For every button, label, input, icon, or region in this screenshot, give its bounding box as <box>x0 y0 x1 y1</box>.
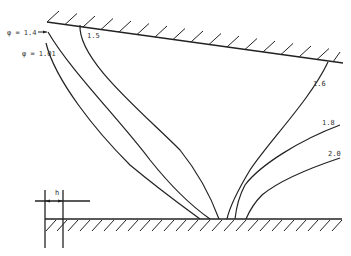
label-phi-1-01: φ = 1.01 <box>22 50 56 58</box>
diagram-canvas: h φ = 1.4 φ = 1.01 1.5 1.6 1.8 2.0 <box>0 0 351 256</box>
label-2-0: 2.0 <box>328 150 341 158</box>
label-phi-1-4: φ = 1.4 <box>7 29 37 37</box>
curve-phi-1-01 <box>46 43 200 219</box>
curve-2-0 <box>246 158 340 219</box>
curve-1-8 <box>235 125 340 219</box>
bottom-wall-hatching <box>46 220 342 231</box>
curve-1-5 <box>80 25 219 219</box>
label-1-5: 1.5 <box>87 32 100 40</box>
dimension-label-h: h <box>55 189 59 197</box>
label-arrow-head <box>43 31 47 34</box>
bottom-wall <box>45 219 342 231</box>
curve-phi-1-4 <box>48 32 210 219</box>
label-1-6: 1.6 <box>313 80 326 88</box>
label-1-8: 1.8 <box>322 119 335 127</box>
flow-curves <box>46 25 340 219</box>
curve-labels: φ = 1.4 φ = 1.01 1.5 1.6 1.8 2.0 <box>7 29 341 158</box>
